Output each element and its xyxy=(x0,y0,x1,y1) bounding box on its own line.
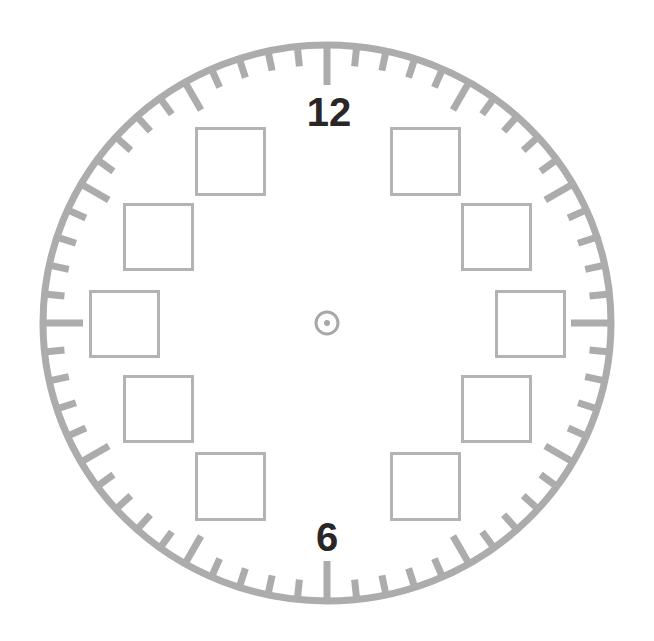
minute-tick xyxy=(382,575,386,595)
hour-tick xyxy=(81,446,109,462)
answer-box-hour-2[interactable] xyxy=(461,203,532,271)
minute-tick xyxy=(211,559,219,577)
answer-box-hour-4[interactable] xyxy=(461,375,532,443)
minute-tick xyxy=(239,59,245,78)
minute-tick xyxy=(239,568,245,587)
minute-tick xyxy=(49,265,69,269)
minute-tick xyxy=(409,59,415,78)
answer-box-hour-7[interactable] xyxy=(195,452,266,521)
answer-box-hour-1[interactable] xyxy=(390,127,461,196)
minute-tick xyxy=(116,496,131,509)
answer-box-hour-8[interactable] xyxy=(123,375,194,443)
hour-tick xyxy=(185,82,201,110)
minute-tick xyxy=(590,350,610,352)
minute-tick xyxy=(409,568,415,587)
minute-tick xyxy=(68,210,86,218)
minute-tick xyxy=(297,580,299,600)
center-pivot-icon xyxy=(316,312,338,334)
minute-tick xyxy=(504,116,517,131)
minute-tick xyxy=(268,575,272,595)
answer-box-hour-10[interactable] xyxy=(123,203,194,271)
center-pivot-dot xyxy=(324,320,330,326)
minute-tick xyxy=(504,515,517,530)
minute-tick xyxy=(57,403,76,409)
minute-tick xyxy=(578,237,597,243)
hour-tick xyxy=(81,184,109,200)
minute-tick xyxy=(541,475,557,487)
answer-box-hour-9[interactable] xyxy=(89,290,160,358)
minute-tick xyxy=(160,532,172,548)
minute-tick xyxy=(590,294,610,296)
minute-tick xyxy=(434,559,442,577)
hour-tick xyxy=(545,446,573,462)
minute-tick xyxy=(211,69,219,87)
minute-tick xyxy=(523,137,538,150)
minute-tick xyxy=(160,98,172,114)
minute-tick xyxy=(434,69,442,87)
minute-tick xyxy=(268,51,272,71)
minute-tick xyxy=(523,496,538,509)
minute-tick xyxy=(45,350,65,352)
hour-tick xyxy=(453,82,469,110)
minute-tick xyxy=(578,403,597,409)
minute-tick xyxy=(355,47,357,67)
answer-box-hour-5[interactable] xyxy=(390,452,461,521)
hour-tick xyxy=(453,536,469,564)
minute-tick xyxy=(97,475,113,487)
minute-tick xyxy=(382,51,386,71)
minute-tick xyxy=(482,532,494,548)
minute-tick xyxy=(297,47,299,67)
minute-tick xyxy=(585,377,605,381)
hour-tick xyxy=(545,184,573,200)
minute-tick xyxy=(137,515,150,530)
numeral-6: 6 xyxy=(316,517,338,557)
minute-tick xyxy=(137,116,150,131)
hour-tick xyxy=(185,536,201,564)
numeral-12: 12 xyxy=(307,92,352,132)
minute-tick xyxy=(68,428,86,436)
minute-tick xyxy=(568,428,586,436)
minute-tick xyxy=(97,160,113,172)
minute-tick xyxy=(482,98,494,114)
minute-tick xyxy=(49,377,69,381)
minute-tick xyxy=(45,294,65,296)
minute-tick xyxy=(541,160,557,172)
answer-box-hour-3[interactable] xyxy=(495,290,566,358)
minute-tick xyxy=(57,237,76,243)
answer-box-hour-11[interactable] xyxy=(195,127,266,196)
minute-tick xyxy=(585,265,605,269)
minute-tick xyxy=(355,580,357,600)
minute-tick xyxy=(116,137,131,150)
minute-tick xyxy=(568,210,586,218)
